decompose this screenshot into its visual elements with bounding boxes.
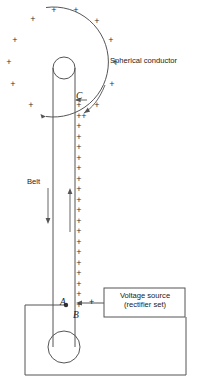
charge-plus-icon: + [81, 112, 86, 121]
label-point-b: B [73, 310, 79, 321]
charge-plus-icon: + [30, 15, 35, 24]
label-point-a: A [60, 297, 66, 308]
belt-charge-plus-icon: + [76, 290, 81, 299]
charge-plus-icon: + [94, 101, 99, 110]
label-comb-c: C [76, 91, 82, 102]
belt-charge-plus-icon: + [76, 248, 81, 257]
charge-plus-icon: + [109, 80, 114, 89]
belt-charge-plus-icon: + [76, 216, 81, 225]
charge-plus-icon: + [73, 6, 78, 15]
van-de-graaff-diagram: + + + + + + + + + + + + + ++++++++++++++… [0, 0, 199, 386]
belt-charge-plus-icon: + [76, 132, 81, 141]
source-terminal-plus-icon: + [89, 297, 94, 307]
charge-plus-icon: + [12, 36, 17, 45]
belt-charge-plus-icon: + [76, 269, 81, 278]
belt-charge-plus-icon: + [76, 237, 81, 246]
belt-charge-plus-icon: + [76, 143, 81, 152]
belt-charge-plus-icon: + [76, 258, 81, 267]
belt-charge-plus-icon: + [76, 195, 81, 204]
label-voltage-source-line2: (rectifier set) [106, 301, 184, 310]
charge-plus-icon: + [51, 6, 56, 15]
charge-plus-icon: + [28, 101, 33, 110]
belt-charge-plus-icon: + [76, 174, 81, 183]
belt-charge-plus-icon: + [76, 164, 81, 173]
belt-charge-plus-icon: + [76, 153, 81, 162]
label-voltage-source: Voltage source (rectifier set) [106, 292, 184, 309]
charge-plus-icon: + [6, 58, 11, 67]
label-spherical-conductor: Spherical conductor [110, 57, 177, 66]
belt-charge-plus-icon: + [76, 301, 81, 310]
charge-plus-icon: + [10, 80, 15, 89]
belt-charge-plus-icon: + [76, 185, 81, 194]
belt-charge-plus-icon: + [76, 206, 81, 215]
belt-charge-plus-icon: + [76, 122, 81, 131]
label-belt: Belt [27, 178, 40, 187]
belt-charge-plus-icon: + [76, 111, 81, 120]
belt-charge-plus-icon: + [76, 227, 81, 236]
top-pulley [53, 57, 75, 79]
charge-plus-icon: + [94, 17, 99, 26]
belt-up-arrow-head [68, 188, 73, 194]
spherical-conductor-arc-arrowhead [41, 114, 47, 119]
belt-down-arrow-head [46, 218, 51, 224]
belt-charge-plus-icon: + [76, 279, 81, 288]
charge-plus-icon: + [108, 36, 113, 45]
